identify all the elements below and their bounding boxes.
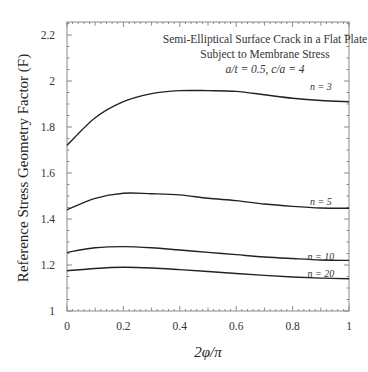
- y-tick-label: 1.4: [41, 213, 56, 225]
- y-tick-label: 1: [49, 305, 55, 317]
- curve-labels: n = 3n = 5n = 10n = 20: [307, 81, 334, 279]
- x-tick-label: 0.6: [229, 320, 244, 332]
- series-curve: [67, 90, 349, 145]
- series-label: n = 10: [307, 251, 334, 262]
- x-axis-label: 2φ/π: [194, 344, 222, 360]
- chart-title: Semi-Elliptical Surface Crack in a Flat …: [163, 33, 367, 76]
- x-tick-label: 0.8: [285, 320, 300, 332]
- series-label: n = 20: [307, 268, 334, 279]
- series-label: n = 3: [310, 81, 332, 92]
- x-tick-label: 1: [346, 320, 352, 332]
- x-tick-label: 0.4: [173, 320, 188, 332]
- series-label: n = 5: [310, 196, 332, 207]
- y-axis-label: Reference Stress Geometry Factor (F): [15, 54, 32, 282]
- chart: 00.20.40.60.8111.21.41.61.822.2 n = 3n =…: [0, 0, 368, 372]
- y-tick-label: 1.6: [41, 167, 56, 179]
- axis-ticks: 00.20.40.60.8111.21.41.61.822.2: [41, 22, 353, 332]
- y-tick-label: 1.2: [41, 259, 56, 271]
- x-tick-label: 0.2: [116, 320, 131, 332]
- title-line: Semi-Elliptical Surface Crack in a Flat …: [163, 33, 367, 46]
- y-tick-label: 2.2: [41, 29, 56, 41]
- x-tick-label: 0: [64, 320, 70, 332]
- series-curve: [67, 193, 349, 210]
- title-line: a/t = 0.5, c/a = 4: [225, 63, 304, 76]
- title-line: Subject to Membrane Stress: [200, 48, 330, 61]
- y-tick-label: 2: [49, 75, 55, 87]
- y-tick-label: 1.8: [41, 121, 56, 133]
